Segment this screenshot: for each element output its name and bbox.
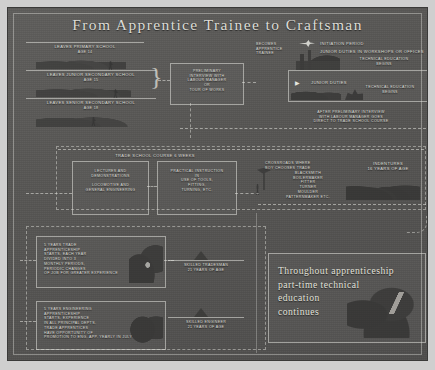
school-rule-3 bbox=[26, 98, 156, 99]
initiation-technical-education-text: TECHNICAL EDUCATION BEGINS bbox=[344, 57, 424, 66]
school-rule-2 bbox=[26, 70, 156, 71]
direct-route-text: AFTER PRELIMINARY INTERVIEW WITH LABOUR … bbox=[276, 110, 426, 124]
page-title: From Apprentice Trainee to Craftsman bbox=[8, 16, 427, 34]
workshop-scene-silhouette-2 bbox=[129, 308, 163, 344]
engineering-apprenticeship-box[interactable]: 5 YEARS ENGINEERING APPRENTICESHIP START… bbox=[36, 301, 166, 350]
schools-brace: } bbox=[150, 64, 162, 90]
school-building-silhouette-1 bbox=[36, 55, 126, 69]
engineering-apprenticeship-text: 5 YEARS ENGINEERING APPRENTICESHIP START… bbox=[44, 307, 136, 340]
schools-to-interview-connector bbox=[158, 80, 170, 81]
engineering-apprenticeship-in-connector bbox=[20, 321, 36, 322]
junior-duties-technical-text: TECHNICAL EDUCATION BEGINS bbox=[353, 85, 427, 94]
trade-apprenticeship-text: 5 YEARS TRADE APPRENTICESHIP STARTS. EAC… bbox=[44, 243, 136, 276]
route-curve-connector bbox=[406, 216, 427, 233]
worker-at-bench-silhouette bbox=[291, 87, 341, 100]
skilled-tradesman-rule bbox=[168, 260, 244, 261]
preliminary-interview-text: PRELIMINARY INTERVIEW WITH LABOUR MANAGE… bbox=[171, 69, 243, 93]
junior-duties-box[interactable]: ▶ JUNIOR DUTIES TECHNICAL EDUCATION BEGI… bbox=[288, 70, 427, 102]
initiation-period-heading: INITIATION PERIOD bbox=[320, 41, 364, 46]
trade-apprenticeship-box[interactable]: 5 YEARS TRADE APPRENTICESHIP STARTS. EAC… bbox=[36, 236, 166, 288]
poster-canvas: From Apprentice Trainee to Craftsman LEA… bbox=[8, 8, 427, 360]
middle-band-dashed-enclosure bbox=[56, 146, 426, 210]
school-building-silhouette-3 bbox=[36, 111, 131, 127]
factory-silhouette bbox=[296, 48, 340, 70]
lower-vertical-divider bbox=[256, 213, 257, 353]
preliminary-interview-box[interactable]: PRELIMINARY INTERVIEW WITH LABOUR MANAGE… bbox=[170, 63, 244, 105]
arrow-right-icon-1: ▶ bbox=[295, 80, 300, 86]
trade-apprenticeship-in-connector bbox=[20, 260, 36, 261]
leaves-primary-school-label: LEAVES PRIMARY SCHOOL bbox=[26, 44, 144, 49]
student-at-drawing-board-silhouette bbox=[347, 282, 419, 338]
school-building-silhouette-2 bbox=[36, 83, 131, 97]
continuing-education-panel[interactable]: Throughout apprenticeship part-time tech… bbox=[268, 253, 426, 343]
junior-duties-label: JUNIOR DUTIES bbox=[311, 80, 347, 85]
leaves-senior-secondary-school-label: LEAVES SENIOR SECONDARY SCHOOL bbox=[26, 100, 156, 105]
leaves-junior-secondary-school-label: LEAVES JUNIOR SECONDARY SCHOOL bbox=[26, 72, 156, 77]
skilled-tradesman-age: 21 YEARS OF AGE bbox=[168, 268, 244, 273]
skilled-engineer-rule bbox=[168, 317, 244, 318]
direct-route-dashed-line bbox=[180, 128, 426, 129]
workshop-scene-silhouette-1 bbox=[129, 243, 163, 283]
school-rule-1 bbox=[26, 42, 144, 43]
interview-to-trainee-connector bbox=[242, 82, 256, 83]
interview-down-connector bbox=[190, 103, 192, 138]
skilled-engineer-age: 21 YEARS OF AGE bbox=[168, 325, 244, 330]
